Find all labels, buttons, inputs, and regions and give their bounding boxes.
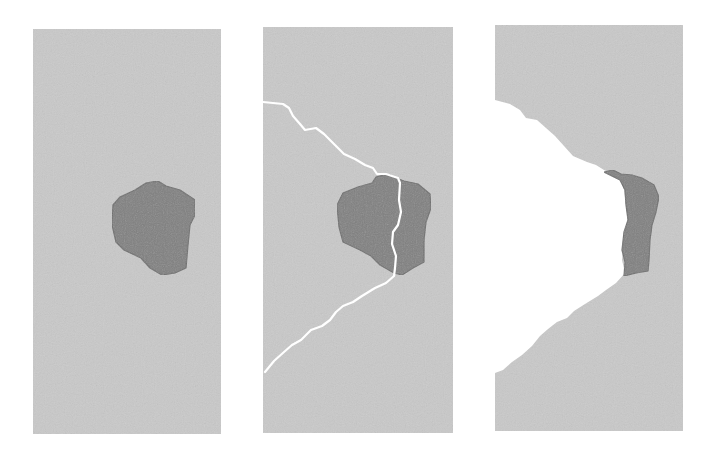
figure bbox=[0, 0, 715, 451]
figure-canvas bbox=[0, 0, 715, 451]
panel-3-separated bbox=[495, 25, 683, 431]
panel-2-cracked bbox=[263, 27, 453, 433]
panel-1-intact bbox=[33, 29, 221, 434]
